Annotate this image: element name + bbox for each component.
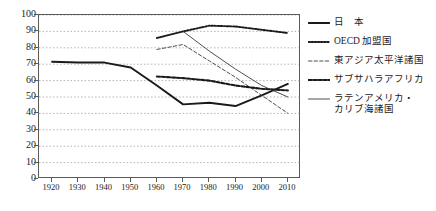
y-axis-tick-label: 50 [2, 91, 36, 101]
series-line-1 [157, 26, 288, 38]
x-axis-tickmark [287, 178, 288, 182]
series-line-2 [157, 45, 288, 114]
x-axis-tickmark [261, 178, 262, 182]
dotted-bold-line-icon [308, 74, 330, 88]
x-axis-tickmark [104, 178, 105, 182]
legend-item-label: 東アジア太平洋諸国 [334, 54, 424, 66]
y-axis-tick-label: 90 [2, 25, 36, 35]
data-series-group [52, 26, 288, 114]
x-axis-tickmark [156, 178, 157, 182]
legend-item-label: サブサハラアフリカ [334, 73, 424, 85]
y-axis-tick-label: 70 [2, 58, 36, 68]
x-axis-tick-label: 2010 [278, 182, 295, 192]
y-axis-tickmark [34, 178, 38, 179]
y-axis-tick-label: 20 [2, 140, 36, 150]
plot-svg [39, 15, 301, 179]
solid-thin-line-icon [308, 93, 330, 107]
plot-area [38, 14, 300, 178]
legend-item-label: ラテンアメリカ・ カリブ海諸国 [334, 92, 414, 115]
y-axis-tick-label: 60 [2, 75, 36, 85]
y-axis-tick-label: 100 [2, 9, 36, 19]
legend-item-label: 日 本 [334, 16, 364, 28]
x-axis-tick-label: 2000 [252, 182, 269, 192]
y-axis-tick-label: 30 [2, 124, 36, 134]
legend-item[interactable]: ラテンアメリカ・ カリブ海諸国 [308, 92, 436, 122]
x-axis-tick-label: 1920 [43, 182, 60, 192]
series-line-0 [52, 62, 288, 106]
legend-item-label: OECD 加盟国 [334, 35, 392, 47]
x-axis-tickmark [51, 178, 52, 182]
x-axis-tickmark [77, 178, 78, 182]
x-axis-tick-label: 1990 [226, 182, 243, 192]
x-axis-tick-label: 1940 [95, 182, 112, 192]
x-axis-tick-label: 1930 [69, 182, 86, 192]
y-axis-tick-label: 80 [2, 42, 36, 52]
legend-item[interactable]: OECD 加盟国 [308, 35, 436, 53]
x-axis-tickmark [235, 178, 236, 182]
chart-screenshot: 1009080706050403020100 19201930194019501… [0, 0, 436, 211]
dashed-line-icon [308, 55, 330, 69]
x-axis-tick-label: 1960 [147, 182, 164, 192]
y-axis-tick-label: 10 [2, 157, 36, 167]
x-axis-labels: 1920193019401950196019701980199020002010 [38, 180, 308, 200]
x-axis-tickmark [208, 178, 209, 182]
legend-item[interactable]: サブサハラアフリカ [308, 73, 436, 91]
solid-thick-line-icon [308, 17, 330, 31]
x-axis-tick-label: 1970 [174, 182, 191, 192]
dotted-line-icon [308, 36, 330, 50]
chart-legend: 日 本OECD 加盟国東アジア太平洋諸国サブサハラアフリカラテンアメリカ・ カリ… [308, 16, 436, 136]
x-axis-tick-label: 1980 [200, 182, 217, 192]
x-axis-tick-label: 1950 [121, 182, 138, 192]
x-axis-tickmark [130, 178, 131, 182]
x-axis-tickmark [182, 178, 183, 182]
legend-item[interactable]: 東アジア太平洋諸国 [308, 54, 436, 72]
y-axis-tick-label: 40 [2, 107, 36, 117]
legend-item[interactable]: 日 本 [308, 16, 436, 34]
y-axis-labels: 1009080706050403020100 [0, 0, 36, 211]
y-axis-tick-label: 0 [2, 173, 36, 183]
